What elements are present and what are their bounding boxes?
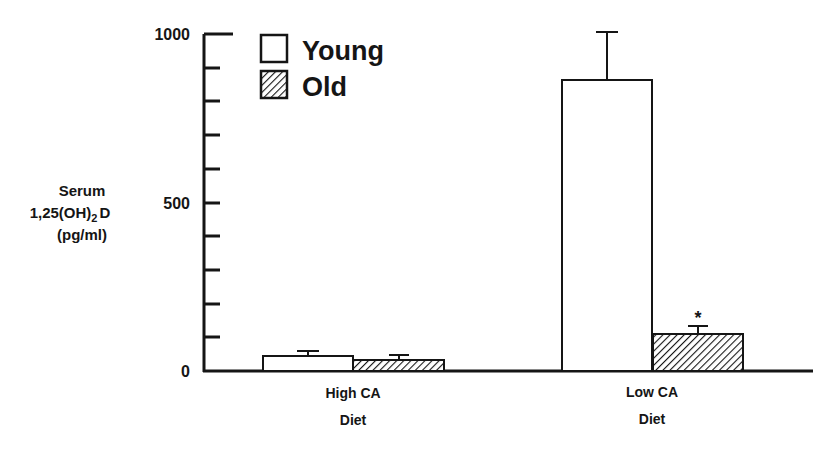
x-label-low-ca-line-1: Low CA [626, 384, 678, 400]
y-label-line-2: 1,25(OH)2D [30, 204, 111, 224]
legend-swatch-old [261, 71, 287, 98]
bar-young-high-ca [263, 356, 353, 371]
axes [203, 34, 813, 372]
x-label-high-ca-line-2: Diet [340, 412, 367, 428]
significance-asterisk: * [694, 308, 701, 328]
x-category-labels: High CA Diet Low CA Diet [325, 384, 678, 428]
y-tick-label-500: 500 [163, 195, 190, 212]
y-tick-labels: 1000 500 0 [154, 26, 190, 380]
y-tick-label-1000: 1000 [154, 26, 190, 43]
bar-chart: Serum 1,25(OH)2D (pg/ml) 1000 500 0 [0, 0, 838, 451]
bar-young-low-ca [562, 80, 652, 371]
bar-old-low-ca [653, 334, 743, 371]
chart-canvas: Serum 1,25(OH)2D (pg/ml) 1000 500 0 [0, 0, 838, 451]
legend: Young Old [261, 35, 384, 102]
y-tick-label-0: 0 [181, 363, 190, 380]
bar-group-low-ca [562, 32, 743, 371]
legend-swatch-young [261, 35, 287, 62]
legend-label-old: Old [302, 72, 347, 102]
y-label-line-3: (pg/ml) [57, 226, 107, 243]
y-axis-label: Serum 1,25(OH)2D (pg/ml) [30, 182, 111, 243]
y-label-line-1: Serum [59, 182, 106, 199]
bar-group-high-ca [263, 351, 444, 371]
x-label-high-ca-line-1: High CA [325, 385, 380, 401]
x-label-low-ca-line-2: Diet [639, 411, 666, 427]
legend-label-young: Young [302, 36, 384, 66]
bar-old-high-ca [353, 360, 444, 371]
